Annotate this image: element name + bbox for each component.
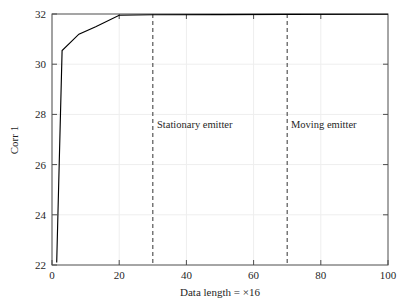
annotation-moving-emitter: Moving emitter <box>291 119 357 130</box>
y-tick-label-5: 32 <box>35 8 46 20</box>
y-axis-title: Corr 1 <box>8 126 20 154</box>
x-axis-title: Data length = ×16 <box>180 286 260 298</box>
y-tick-label-4: 30 <box>35 58 47 70</box>
chart-figure: 32 30 28 26 24 22 0 20 40 60 80 100 Stat… <box>0 0 420 307</box>
chart-background <box>0 0 420 307</box>
annotation-stationary-emitter: Stationary emitter <box>157 119 233 130</box>
y-tick-label-0: 22 <box>35 259 46 271</box>
x-tick-label-2: 40 <box>181 269 193 281</box>
y-tick-label-2: 26 <box>35 159 47 171</box>
chart-canvas: 32 30 28 26 24 22 0 20 40 60 80 100 Stat… <box>0 0 420 307</box>
x-tick-label-4: 80 <box>315 269 327 281</box>
y-tick-label-3: 28 <box>35 108 47 120</box>
x-tick-label-0: 0 <box>49 269 55 281</box>
y-tick-label-1: 24 <box>35 209 47 221</box>
x-tick-label-3: 60 <box>248 269 260 281</box>
x-tick-label-1: 20 <box>114 269 126 281</box>
x-tick-label-5: 100 <box>380 269 397 281</box>
